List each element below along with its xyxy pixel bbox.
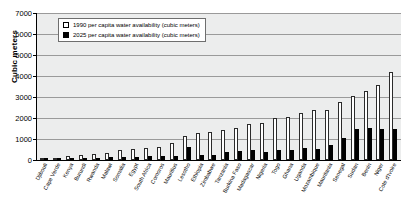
- bar-chart: Cubic meters 700060005000400030002000100…: [0, 0, 402, 224]
- bar-2025: [290, 150, 294, 160]
- x-tick-label: Togo: [270, 162, 281, 176]
- chart-legend: 1990 per capita water availability (cubi…: [58, 18, 206, 42]
- bar-2025: [329, 145, 333, 160]
- x-label-cell: Cote d'Ivoire: [386, 161, 399, 223]
- bar-2025: [44, 158, 48, 160]
- bar-2025: [368, 128, 372, 160]
- legend-swatch-1990: [63, 22, 69, 28]
- y-tick-label: 6000: [0, 30, 32, 39]
- bar-group: [348, 13, 361, 160]
- bar-2025: [96, 158, 100, 160]
- x-label-cell: Senegal: [334, 161, 347, 223]
- x-axis-tick-labels: DjiboutiCape VerdeKenyaBurundiRwandaMala…: [36, 161, 400, 223]
- x-label-cell: Mozambique: [308, 161, 321, 223]
- bar-group: [284, 13, 297, 160]
- x-label-cell: Madagascar: [244, 161, 257, 223]
- bar-group: [361, 13, 374, 160]
- x-tick-label: Egypt: [127, 162, 139, 177]
- x-label-cell: Nigeria: [257, 161, 270, 223]
- bar-group: [296, 13, 309, 160]
- bar-2025: [355, 129, 359, 160]
- legend-item-1990: 1990 per capita water availability (cubi…: [63, 22, 200, 28]
- x-label-cell: Ethiopia: [192, 161, 205, 223]
- x-label-cell: Mauritius: [166, 161, 179, 223]
- x-label-cell: Comoros: [153, 161, 166, 223]
- bar-group: [335, 13, 348, 160]
- x-label-cell: Sudan: [347, 161, 360, 223]
- x-tick-label: Rwanda: [86, 162, 101, 183]
- bar-2025: [161, 156, 165, 160]
- bar-2025: [187, 147, 191, 160]
- bar-2025: [380, 129, 384, 160]
- bar-2025: [109, 157, 113, 160]
- x-tick-label: Kenya: [62, 162, 75, 179]
- bar-2025: [251, 150, 255, 160]
- y-tick-label: 5000: [0, 51, 32, 60]
- bar-group: [387, 13, 400, 160]
- bar-2025: [70, 158, 74, 160]
- bar-2025: [174, 156, 178, 160]
- x-label-cell: Togo: [270, 161, 283, 223]
- bar-2025: [148, 156, 152, 160]
- y-tick-label: 0: [0, 156, 32, 165]
- bar-2025: [122, 157, 126, 160]
- bar-2025: [200, 155, 204, 160]
- bar-2025: [264, 152, 268, 160]
- bar-2025: [57, 158, 61, 160]
- x-tick-label: Niger: [373, 162, 385, 177]
- x-label-cell: Burkina Faso: [231, 161, 244, 223]
- x-tick-label: Nigeria: [255, 162, 269, 180]
- legend-label-1990: 1990 per capita water availability (cubi…: [73, 22, 200, 28]
- bar-2025: [342, 138, 346, 160]
- x-label-cell: Uganda: [295, 161, 308, 223]
- bar-group: [38, 13, 51, 160]
- x-tick-label: Ghana: [281, 162, 294, 180]
- y-tick-label: 4000: [0, 72, 32, 81]
- x-label-cell: Djibouti: [37, 161, 50, 223]
- y-tick-label: 2000: [0, 114, 32, 123]
- y-tick-label: 3000: [0, 93, 32, 102]
- x-tick-label: Senegal: [331, 162, 346, 183]
- x-label-cell: Egypt: [127, 161, 140, 223]
- bar-2025: [303, 148, 307, 160]
- bar-group: [322, 13, 335, 160]
- bar-group: [309, 13, 322, 160]
- y-tick-label: 7000: [0, 9, 32, 18]
- x-label-cell: Lesotho: [179, 161, 192, 223]
- bar-2025: [225, 152, 229, 160]
- bar-group: [206, 13, 219, 160]
- bar-2025: [393, 129, 397, 160]
- y-axis-tick-labels: 70006000500040003000200010000: [0, 13, 32, 160]
- x-label-cell: Malawi: [102, 161, 115, 223]
- x-label-cell: Burundi: [76, 161, 89, 223]
- legend-label-2025: 2025 per capita water availability (cubi…: [73, 32, 200, 38]
- bar-2025: [277, 150, 281, 161]
- bar-group: [219, 13, 232, 160]
- bar-group: [258, 13, 271, 160]
- x-label-cell: Cape Verde: [50, 161, 63, 223]
- bar-2025: [212, 155, 216, 160]
- bar-group: [271, 13, 284, 160]
- x-label-cell: Kenya: [63, 161, 76, 223]
- x-tick-label: Sudan: [346, 162, 359, 179]
- legend-swatch-2025: [63, 32, 69, 38]
- bar-2025: [316, 149, 320, 160]
- bar-2025: [83, 158, 87, 160]
- x-tick-label: Benin: [360, 162, 372, 177]
- bar-group: [232, 13, 245, 160]
- bar-group: [374, 13, 387, 160]
- x-label-cell: Niger: [373, 161, 386, 223]
- x-label-cell: Zimbabwe: [205, 161, 218, 223]
- x-label-cell: South Africa: [140, 161, 153, 223]
- x-label-cell: Mauritania: [321, 161, 334, 223]
- bar-group: [245, 13, 258, 160]
- bar-2025: [238, 151, 242, 160]
- bar-2025: [135, 157, 139, 160]
- x-tick-label: Somalia: [111, 162, 126, 183]
- x-label-cell: Rwanda: [89, 161, 102, 223]
- x-label-cell: Ghana: [283, 161, 296, 223]
- y-tick-label: 1000: [0, 135, 32, 144]
- legend-item-2025: 2025 per capita water availability (cubi…: [63, 32, 200, 38]
- x-label-cell: Somalia: [115, 161, 128, 223]
- x-label-cell: Benin: [360, 161, 373, 223]
